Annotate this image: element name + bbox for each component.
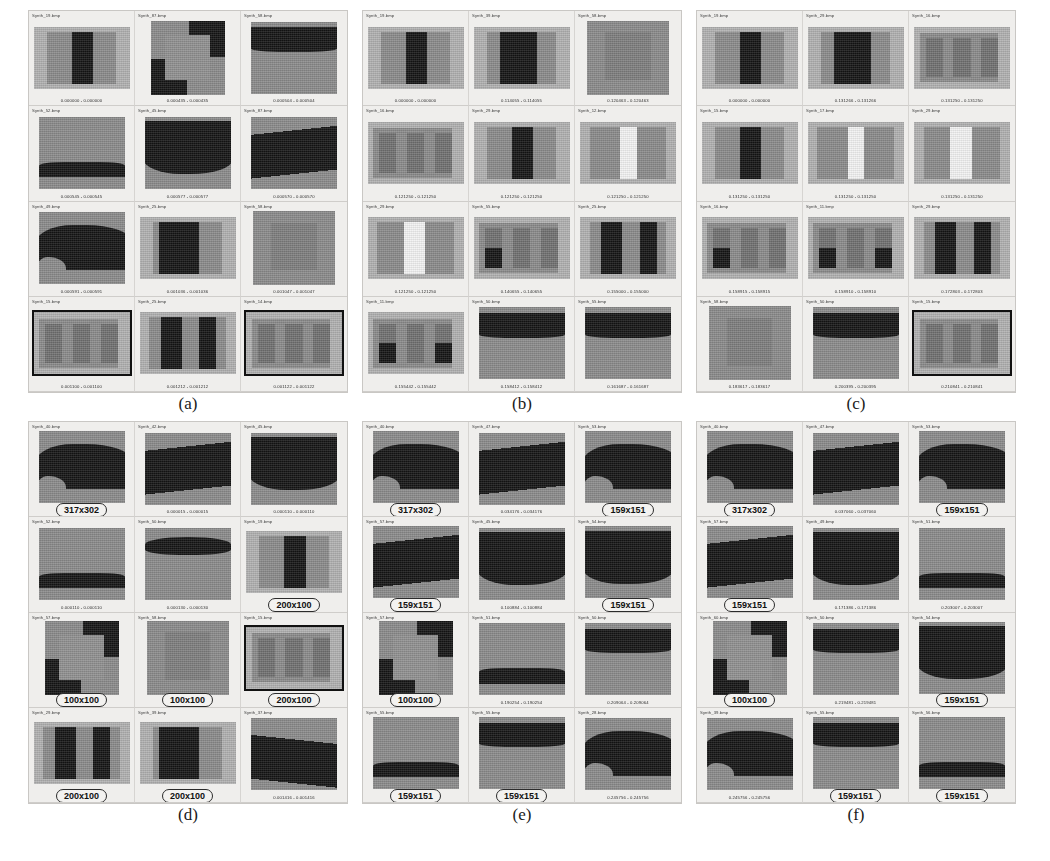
synthetic-image-stripe-dark-center[interactable] — [702, 27, 798, 89]
synthetic-image-diag-dark-upper[interactable] — [707, 526, 793, 598]
synthetic-image-band-top-dark[interactable] — [585, 623, 671, 695]
synthetic-image-three-stripes[interactable] — [246, 312, 342, 374]
thumbnail-cell[interactable]: Synth_29.bmp200x100 — [29, 708, 135, 803]
thumbnail-cell[interactable]: Synth_39.bmp0.114055 - 0.114055 — [469, 11, 575, 106]
thumbnail-cell[interactable]: Synth_50.bmp0.200395 - 0.200395 — [803, 297, 909, 392]
synthetic-image-diag-dark-upper[interactable] — [373, 526, 459, 598]
thumbnail-cell[interactable]: Synth_50.bmp0.209064 - 0.209064 — [575, 613, 681, 708]
thumbnail-cell[interactable]: Synth_47.bmp0.034176 - 0.034176 — [469, 422, 575, 517]
synthetic-image-diag-dark-lower[interactable] — [251, 718, 337, 790]
thumbnail-cell[interactable]: Synth_39.bmp0.245756 - 0.245756 — [697, 708, 803, 803]
thumbnail-cell[interactable]: Synth_37.bmp0.001416 - 0.001416 — [241, 708, 347, 803]
synthetic-image-three-stripes[interactable] — [246, 627, 342, 689]
thumbnail-cell[interactable]: Synth_15.bmp0.001100 - 0.001100 — [29, 297, 135, 392]
thumbnail-cell[interactable]: Synth_19.bmp0.000000 - 0.000000 — [363, 11, 469, 106]
synthetic-image-diag-dark-upper[interactable] — [479, 433, 565, 505]
thumbnail-cell[interactable]: Synth_45.bmp0.100884 - 0.100884 — [469, 517, 575, 612]
thumbnail-cell[interactable]: Synth_25.bmp0.155000 - 0.155000 — [575, 202, 681, 297]
synthetic-image-band-lower-dark[interactable] — [39, 117, 125, 189]
synthetic-image-diag-dark-upper[interactable] — [145, 433, 231, 505]
synthetic-image-two-dark-bars[interactable] — [140, 312, 236, 374]
thumbnail-cell[interactable]: Synth_47.bmp0.037060 - 0.037060 — [803, 422, 909, 517]
thumbnail-cell[interactable]: Synth_19.bmp200x100 — [241, 517, 347, 612]
thumbnail-cell[interactable]: Synth_29.bmp0.121250 - 0.121250 — [363, 202, 469, 297]
synthetic-image-wave-blob-dark[interactable] — [585, 718, 671, 790]
synthetic-image-center-square[interactable] — [147, 621, 229, 695]
synthetic-image-stripe-dark-left[interactable] — [140, 217, 236, 279]
thumbnail-cell[interactable]: Synth_87.bmp0.000570 - 0.000570 — [241, 106, 347, 201]
synthetic-image-stripe-dark-wide[interactable] — [474, 27, 570, 89]
synthetic-image-band-lower-dark[interactable] — [919, 528, 1005, 600]
synthetic-image-band-top-dark[interactable] — [251, 22, 337, 94]
synthetic-image-bevel-frame[interactable] — [379, 621, 453, 695]
thumbnail-cell[interactable]: Synth_55.bmp159x151 — [803, 708, 909, 803]
synthetic-image-wave-top-dark[interactable] — [145, 117, 231, 189]
thumbnail-cell[interactable]: Synth_49.bmp0.171386 - 0.171386 — [803, 517, 909, 612]
thumbnail-cell[interactable]: Synth_14.bmp0.001122 - 0.001122 — [241, 297, 347, 392]
synthetic-image-bevel-frame[interactable] — [45, 621, 119, 695]
thumbnail-cell[interactable]: Synth_57.bmp159x151 — [363, 517, 469, 612]
thumbnail-cell[interactable]: Synth_58.bmp100x100 — [135, 613, 241, 708]
thumbnail-cell[interactable]: Synth_29.bmp0.172803 - 0.172803 — [909, 202, 1015, 297]
synthetic-image-stripe-dark-left[interactable] — [140, 722, 236, 784]
thumbnail-cell[interactable]: Synth_16.bmp0.158915 - 0.158915 — [697, 202, 803, 297]
thumbnail-cell[interactable]: Synth_51.bmp0.190254 - 0.190254 — [469, 613, 575, 708]
thumbnail-cell[interactable]: Synth_12.bmp0.121250 - 0.121250 — [575, 106, 681, 201]
synthetic-image-stripe-white-center[interactable] — [580, 122, 676, 184]
thumbnail-cell[interactable]: Synth_53.bmp159x151 — [909, 422, 1015, 517]
thumbnail-cell[interactable]: Synth_40.bmp317x302 — [697, 422, 803, 517]
thumbnail-cell[interactable]: Synth_45.bmp0.000110 - 0.000110 — [241, 422, 347, 517]
synthetic-image-wave-blob-dark[interactable] — [707, 431, 793, 503]
synthetic-image-bevel-frame[interactable] — [151, 21, 225, 95]
thumbnail-cell[interactable]: Synth_58.bmp0.001047 - 0.001047 — [241, 202, 347, 297]
synthetic-image-wave-top-dark[interactable] — [585, 526, 671, 598]
thumbnail-cell[interactable]: Synth_19.bmp0.000000 - 0.000000 — [29, 11, 135, 106]
synthetic-image-three-stripes-split[interactable] — [368, 312, 464, 374]
synthetic-image-band-top-dark[interactable] — [813, 307, 899, 379]
thumbnail-cell[interactable]: Synth_54.bmp159x151 — [575, 517, 681, 612]
thumbnail-cell[interactable]: Synth_55.bmp0.140655 - 0.140655 — [469, 202, 575, 297]
thumbnail-cell[interactable]: Synth_15.bmp0.131250 - 0.131250 — [697, 106, 803, 201]
thumbnail-cell[interactable]: Synth_28.bmp0.245756 - 0.245756 — [575, 708, 681, 803]
synthetic-image-band-top-dark[interactable] — [479, 307, 565, 379]
thumbnail-cell[interactable]: Synth_16.bmp0.121250 - 0.121250 — [363, 106, 469, 201]
synthetic-image-wave-blob-dark[interactable] — [39, 212, 125, 284]
synthetic-image-stripe-white-wide[interactable] — [368, 217, 464, 279]
synthetic-image-center-square[interactable] — [587, 21, 669, 95]
thumbnail-cell[interactable]: Synth_55.bmp159x151 — [363, 708, 469, 803]
thumbnail-cell[interactable]: Synth_58.bmp0.000504 - 0.000504 — [241, 11, 347, 106]
synthetic-image-center-square[interactable] — [709, 306, 791, 380]
synthetic-image-diag-dark-upper[interactable] — [251, 117, 337, 189]
synthetic-image-stripe-dark-center[interactable] — [702, 122, 798, 184]
thumbnail-cell[interactable]: Synth_54.bmp159x151 — [909, 613, 1015, 708]
thumbnail-cell[interactable]: Synth_16.bmp0.131250 - 0.131250 — [909, 11, 1015, 106]
synthetic-image-band-top-dark[interactable] — [813, 717, 899, 789]
thumbnail-cell[interactable]: Synth_58.bmp0.120463 - 0.120463 — [575, 11, 681, 106]
synthetic-image-two-dark-bars[interactable] — [34, 722, 130, 784]
thumbnail-cell[interactable]: Synth_51.bmp0.203007 - 0.203007 — [909, 517, 1015, 612]
synthetic-image-stripe-white-wide[interactable] — [914, 122, 1010, 184]
thumbnail-cell[interactable]: Synth_53.bmp159x151 — [575, 422, 681, 517]
synthetic-image-wave-top-dark[interactable] — [813, 528, 899, 600]
thumbnail-cell[interactable]: Synth_57.bmp100x100 — [363, 613, 469, 708]
synthetic-image-three-stripes[interactable] — [914, 27, 1010, 89]
thumbnail-cell[interactable]: Synth_52.bmp0.000545 - 0.000545 — [29, 106, 135, 201]
synthetic-image-stripe-dark-center[interactable] — [474, 122, 570, 184]
synthetic-image-wave-blob-dark[interactable] — [707, 718, 793, 790]
synthetic-image-band-top-dark[interactable] — [585, 307, 671, 379]
synthetic-image-wave-top-dark[interactable] — [479, 528, 565, 600]
thumbnail-cell[interactable]: Synth_50.bmp0.219481 - 0.219481 — [803, 613, 909, 708]
thumbnail-cell[interactable]: Synth_15.bmp0.210841 - 0.210841 — [909, 297, 1015, 392]
synthetic-image-band-lower-dark[interactable] — [919, 717, 1005, 789]
synthetic-image-three-stripes[interactable] — [914, 312, 1010, 374]
thumbnail-cell[interactable]: Synth_15.bmp200x100 — [241, 613, 347, 708]
thumbnail-cell[interactable]: Synth_19.bmp0.000000 - 0.000000 — [697, 11, 803, 106]
thumbnail-cell[interactable]: Synth_42.bmp0.000015 - 0.000015 — [135, 422, 241, 517]
synthetic-image-diag-dark-upper[interactable] — [813, 433, 899, 505]
synthetic-image-two-dark-bars[interactable] — [914, 217, 1010, 279]
thumbnail-cell[interactable]: Synth_56.bmp159x151 — [909, 708, 1015, 803]
synthetic-image-stripe-dark-center[interactable] — [246, 531, 342, 593]
synthetic-image-wave-blob-dark[interactable] — [919, 431, 1005, 503]
synthetic-image-band-top-dark[interactable] — [813, 623, 899, 695]
thumbnail-cell[interactable]: Synth_40.bmp317x302 — [29, 422, 135, 517]
